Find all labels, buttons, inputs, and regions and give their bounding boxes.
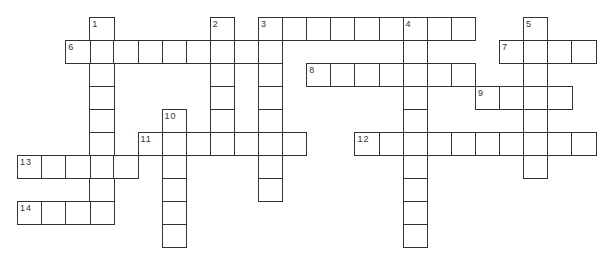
crossword-cell[interactable]: [379, 17, 404, 41]
crossword-cell[interactable]: 9: [475, 86, 500, 110]
crossword-cell[interactable]: [210, 63, 235, 87]
crossword-cell[interactable]: 13: [17, 155, 42, 179]
crossword-cell[interactable]: [379, 63, 404, 87]
crossword-cell[interactable]: [41, 201, 66, 225]
crossword-cell[interactable]: [523, 155, 548, 179]
crossword-cell[interactable]: [306, 17, 331, 41]
crossword-cell[interactable]: [258, 40, 283, 64]
crossword-cell[interactable]: [41, 155, 66, 179]
crossword-cell[interactable]: 5: [523, 17, 548, 41]
crossword-cell[interactable]: [330, 17, 355, 41]
crossword-cell[interactable]: [403, 155, 428, 179]
crossword-cell[interactable]: [282, 132, 307, 156]
crossword-cell[interactable]: [330, 63, 355, 87]
crossword-cell[interactable]: 12: [354, 132, 379, 156]
crossword-cell[interactable]: [89, 132, 114, 156]
crossword-cell[interactable]: [89, 63, 114, 87]
crossword-cell[interactable]: [210, 109, 235, 133]
crossword-cell[interactable]: [162, 132, 187, 156]
crossword-cell[interactable]: [210, 40, 235, 64]
clue-number: 6: [68, 42, 74, 52]
crossword-cell[interactable]: [427, 17, 452, 41]
crossword-cell[interactable]: [403, 40, 428, 64]
crossword-cell[interactable]: [89, 201, 114, 225]
crossword-cell[interactable]: [451, 132, 476, 156]
crossword-cell[interactable]: 4: [403, 17, 428, 41]
crossword-cell[interactable]: [427, 63, 452, 87]
crossword-cell[interactable]: [403, 224, 428, 248]
crossword-cell[interactable]: 1: [89, 17, 114, 41]
crossword-cell[interactable]: [162, 155, 187, 179]
crossword-cell[interactable]: [403, 63, 428, 87]
crossword-cell[interactable]: [547, 86, 572, 110]
crossword-cell[interactable]: [523, 63, 548, 87]
crossword-cell[interactable]: [282, 17, 307, 41]
crossword-cell[interactable]: [523, 132, 548, 156]
crossword-cell[interactable]: [571, 132, 596, 156]
crossword-cell[interactable]: 2: [210, 17, 235, 41]
crossword-cell[interactable]: [547, 40, 572, 64]
crossword-cell[interactable]: [354, 63, 379, 87]
clue-number: 13: [20, 157, 32, 167]
crossword-cell[interactable]: [89, 155, 114, 179]
crossword-cell[interactable]: [379, 132, 404, 156]
clue-number: 8: [309, 65, 315, 75]
crossword-cell[interactable]: [258, 132, 283, 156]
crossword-cell[interactable]: [523, 40, 548, 64]
crossword-cell[interactable]: [89, 86, 114, 110]
crossword-cell[interactable]: [89, 40, 114, 64]
crossword-cell[interactable]: [258, 63, 283, 87]
crossword-cell[interactable]: [523, 86, 548, 110]
crossword-cell[interactable]: [499, 132, 524, 156]
clue-number: 11: [141, 134, 152, 144]
crossword-cell[interactable]: 7: [499, 40, 524, 64]
clue-number: 10: [165, 111, 177, 121]
crossword-cell[interactable]: 3: [258, 17, 283, 41]
crossword-cell[interactable]: [499, 86, 524, 110]
crossword-cell[interactable]: 11: [138, 132, 163, 156]
crossword-cell[interactable]: [258, 109, 283, 133]
crossword-cell[interactable]: [186, 40, 211, 64]
crossword-cell[interactable]: [258, 86, 283, 110]
crossword-cell[interactable]: [451, 17, 476, 41]
crossword-cell[interactable]: [403, 178, 428, 202]
crossword-cell[interactable]: [403, 201, 428, 225]
crossword-cell[interactable]: [162, 201, 187, 225]
crossword-cell[interactable]: [138, 40, 163, 64]
crossword-cell[interactable]: 6: [65, 40, 90, 64]
crossword-cell[interactable]: [162, 40, 187, 64]
crossword-cell[interactable]: [234, 132, 259, 156]
crossword-cell[interactable]: [65, 155, 90, 179]
crossword-cell[interactable]: [162, 178, 187, 202]
crossword-cell[interactable]: [89, 178, 114, 202]
crossword-cell[interactable]: [427, 132, 452, 156]
crossword-cell[interactable]: [113, 155, 138, 179]
crossword-cell[interactable]: 8: [306, 63, 331, 87]
crossword-grid: 1234567891011121314: [0, 0, 610, 262]
crossword-cell[interactable]: 14: [17, 201, 42, 225]
crossword-cell[interactable]: [186, 132, 211, 156]
clue-number: 5: [526, 19, 532, 29]
crossword-cell[interactable]: [547, 132, 572, 156]
crossword-cell[interactable]: [258, 155, 283, 179]
crossword-cell[interactable]: [210, 132, 235, 156]
crossword-cell[interactable]: [403, 86, 428, 110]
clue-number: 3: [261, 19, 267, 29]
crossword-cell[interactable]: [113, 40, 138, 64]
crossword-cell[interactable]: [162, 224, 187, 248]
crossword-cell[interactable]: [571, 40, 596, 64]
crossword-cell[interactable]: [403, 109, 428, 133]
crossword-cell[interactable]: [475, 132, 500, 156]
crossword-cell[interactable]: [354, 17, 379, 41]
crossword-cell[interactable]: [89, 109, 114, 133]
crossword-cell[interactable]: [258, 178, 283, 202]
crossword-cell[interactable]: 10: [162, 109, 187, 133]
crossword-cell[interactable]: [403, 132, 428, 156]
crossword-cell[interactable]: [210, 86, 235, 110]
crossword-cell[interactable]: [523, 109, 548, 133]
clue-number: 14: [20, 203, 32, 213]
crossword-cell[interactable]: [65, 201, 90, 225]
crossword-cell[interactable]: [234, 40, 259, 64]
clue-number: 12: [357, 134, 369, 144]
crossword-cell[interactable]: [451, 63, 476, 87]
